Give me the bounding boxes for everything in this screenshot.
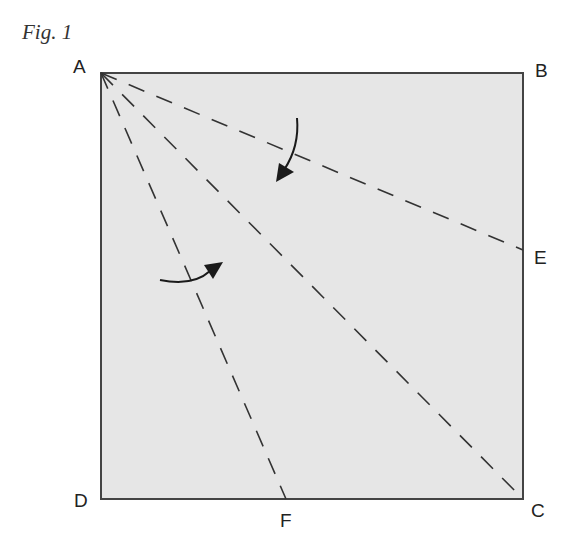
label-f: F	[280, 510, 292, 532]
origami-fold-diagram	[0, 0, 573, 550]
label-b: B	[535, 60, 548, 82]
label-e: E	[534, 247, 547, 269]
label-c: C	[531, 500, 545, 522]
paper-square	[101, 73, 523, 499]
label-d: D	[74, 490, 88, 512]
label-a: A	[73, 56, 86, 78]
